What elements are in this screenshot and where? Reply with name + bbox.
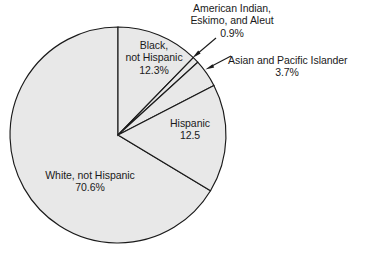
slice-label-hispanic-line1: Hispanic [152, 117, 228, 129]
slice-label-hispanic-value: 12.5 [152, 129, 228, 141]
slice-label-black-not-hispanic-line1: Black, [112, 39, 196, 51]
slice-label-american-indian-line2: Eskimo, and Aleut [174, 14, 290, 26]
slice-label-hispanic: Hispanic 12.5 [152, 117, 228, 142]
slice-label-asian-pacific-islander: Asian and Pacific Islander 3.7% [228, 54, 368, 79]
slice-label-white-not-hispanic-value: 70.6% [27, 181, 153, 193]
slice-label-american-indian-value: 0.9% [174, 27, 290, 39]
slice-label-white-not-hispanic-line1: White, not Hispanic [27, 169, 153, 181]
slice-label-black-not-hispanic-line2: not Hispanic [112, 51, 196, 63]
slice-label-asian-pacific-islander-line1: Asian and Pacific Islander [228, 54, 368, 66]
slice-label-black-not-hispanic-value: 12.3% [112, 64, 196, 76]
leader-arrowhead-asian-pacific-islander [205, 64, 214, 69]
leader-line-american-indian [197, 38, 217, 55]
slice-label-american-indian-line1: American Indian, [174, 2, 290, 14]
slice-label-black-not-hispanic: Black, not Hispanic 12.3% [112, 39, 196, 76]
pie-chart-figure: American Indian, Eskimo, and Aleut 0.9% … [0, 0, 371, 253]
slice-label-american-indian: American Indian, Eskimo, and Aleut 0.9% [174, 2, 290, 39]
slice-label-asian-pacific-islander-value: 3.7% [228, 66, 346, 78]
slice-label-white-not-hispanic: White, not Hispanic 70.6% [27, 169, 153, 194]
